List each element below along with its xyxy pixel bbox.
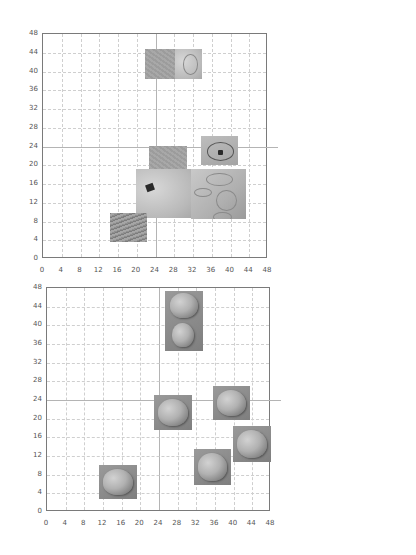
x-tick-label: 40 (225, 519, 241, 527)
image-thumbnail-large-light-with-dark-spot (136, 169, 192, 218)
x-tick-label: 24 (147, 266, 163, 274)
gridline-vertical (99, 34, 100, 257)
gridline-vertical (252, 288, 253, 510)
x-tick-label: 8 (72, 266, 88, 274)
image-thumbnail-shell-left (154, 395, 192, 430)
image-thumbnail-texture-pair-with-ring (145, 49, 202, 79)
x-tick-label: 44 (240, 266, 256, 274)
y-tick-label: 40 (26, 320, 42, 328)
y-tick-label: 24 (26, 395, 42, 403)
cell-outline (206, 173, 232, 186)
gridline-vertical (62, 34, 63, 257)
x-tick-label: 20 (131, 519, 147, 527)
gridline-horizontal (47, 307, 269, 308)
gridline-vertical (81, 34, 82, 257)
cell-outline (213, 212, 231, 220)
y-tick-label: 32 (22, 104, 38, 112)
plot-area (46, 287, 270, 511)
y-tick-label: 0 (22, 254, 38, 262)
gridline-horizontal (47, 344, 269, 345)
y-tick-label: 8 (26, 470, 42, 478)
x-tick-label: 4 (57, 519, 73, 527)
gridline-vertical (249, 34, 250, 257)
shell-shape (170, 293, 198, 318)
x-tick-label: 0 (34, 266, 50, 274)
x-tick-label: 48 (262, 519, 278, 527)
image-thumbnail-fine-fibrous-texture (110, 213, 147, 242)
shell-shape (103, 469, 134, 495)
gridline-horizontal (43, 222, 266, 223)
gridline-horizontal (47, 475, 269, 476)
y-tick-label: 36 (26, 339, 42, 347)
gridline-horizontal (47, 325, 269, 326)
y-tick-label: 44 (26, 302, 42, 310)
y-tick-label: 20 (26, 414, 42, 422)
gridline-horizontal (43, 240, 266, 241)
y-tick-label: 16 (22, 179, 38, 187)
x-tick-label: 4 (53, 266, 69, 274)
y-tick-label: 24 (22, 142, 38, 150)
x-tick-label: 16 (113, 519, 129, 527)
x-tick-label: 32 (187, 519, 203, 527)
shell-shape (158, 399, 189, 426)
gridline-horizontal (43, 128, 266, 129)
y-tick-label: 44 (22, 48, 38, 56)
x-tick-label: 12 (94, 519, 110, 527)
y-tick-label: 8 (22, 217, 38, 225)
x-tick-label: 28 (169, 519, 185, 527)
cell-outline (216, 190, 237, 211)
x-tick-label: 24 (150, 519, 166, 527)
x-tick-label: 12 (90, 266, 106, 274)
shell-shape (217, 390, 246, 416)
y-tick-label: 32 (26, 358, 42, 366)
x-tick-label: 36 (206, 519, 222, 527)
y-tick-label: 20 (22, 160, 38, 168)
y-tick-label: 16 (26, 432, 42, 440)
x-tick-label: 8 (75, 519, 91, 527)
x-tick-label: 28 (165, 266, 181, 274)
gridline-vertical (140, 288, 141, 510)
x-tick-label: 20 (128, 266, 144, 274)
x-tick-label: 32 (184, 266, 200, 274)
x-tick-label: 0 (38, 519, 54, 527)
image-thumbnail-shell-bottom-left (99, 465, 137, 499)
x-tick-label: 36 (203, 266, 219, 274)
shell-shape (198, 453, 227, 480)
image-thumbnail-shell-pair-tall (165, 291, 203, 351)
x-tick-label: 16 (109, 266, 125, 274)
y-tick-label: 28 (26, 376, 42, 384)
y-tick-label: 48 (22, 29, 38, 37)
dark-spot (218, 150, 223, 155)
x-tick-label: 48 (259, 266, 275, 274)
image-thumbnail-shell-right (233, 426, 271, 462)
plot-area (42, 33, 267, 258)
y-tick-label: 4 (26, 488, 42, 496)
y-tick-label: 12 (26, 451, 42, 459)
dark-spot (145, 183, 155, 192)
y-tick-label: 0 (26, 507, 42, 515)
cell-outline (194, 188, 212, 197)
gridline-horizontal (47, 363, 269, 364)
gridline-horizontal (47, 493, 269, 494)
gridline-vertical (66, 288, 67, 510)
image-thumbnail-cell-with-dark-spot (201, 136, 238, 165)
x-tick-label: 44 (243, 519, 259, 527)
ring-shape (183, 54, 197, 74)
y-tick-label: 48 (26, 283, 42, 291)
gridline-horizontal (47, 381, 269, 382)
y-tick-label: 36 (22, 85, 38, 93)
y-tick-label: 12 (22, 198, 38, 206)
shell-shape (172, 323, 194, 347)
image-thumbnail-gray-texture (149, 146, 187, 170)
x-tick-label: 40 (222, 266, 238, 274)
image-thumbnail-large-cells-rings (191, 169, 246, 219)
ring-panel (175, 49, 202, 79)
image-thumbnail-shell-bottom-center (194, 449, 231, 485)
gridline-horizontal (43, 90, 266, 91)
texture-panel (145, 49, 175, 79)
gridline-vertical (84, 288, 85, 510)
gridline-horizontal (43, 109, 266, 110)
shell-shape (237, 430, 267, 457)
y-tick-label: 4 (22, 235, 38, 243)
y-tick-label: 28 (22, 123, 38, 131)
